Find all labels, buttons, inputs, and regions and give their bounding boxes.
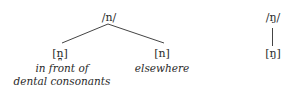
allophone-dental-n: [n̪] (52, 48, 68, 60)
context-dental-line1: in front of (35, 62, 88, 74)
branch-left (62, 24, 108, 43)
allophone-n: [n] (154, 48, 170, 60)
context-dental-line2: dental consonants (14, 75, 111, 87)
context-elsewhere: elsewhere (135, 62, 189, 74)
phoneme-n: /n/ (102, 12, 117, 24)
allophone-ng: [ŋ] (265, 48, 281, 60)
phoneme-ng: /ŋ/ (266, 12, 281, 24)
branch-right (108, 24, 164, 43)
